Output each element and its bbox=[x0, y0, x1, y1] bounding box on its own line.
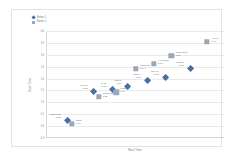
data-point-label: Avg 973.41 bbox=[211, 37, 218, 43]
y-axis-tick-label: 1.0 bbox=[41, 101, 44, 104]
data-point-value: 1.25 bbox=[103, 95, 115, 98]
y-axis-tick-label: 3.5 bbox=[41, 41, 44, 44]
x-axis-title: Real Time bbox=[46, 148, 224, 152]
data-point-label: Mac 972.15 bbox=[151, 70, 159, 76]
data-point-value: 3.12 bbox=[175, 54, 187, 57]
data-point-value: 2.48 bbox=[158, 62, 169, 65]
legend-square-swatch-icon bbox=[32, 21, 35, 24]
data-point-value: 3.41 bbox=[211, 40, 218, 43]
gridline bbox=[46, 90, 224, 91]
data-point-value: 2.15 bbox=[151, 73, 159, 76]
plot-area: Scan Time Real Time 4.03.53.02.52.01.51.… bbox=[46, 31, 224, 138]
data-point-label: Trans 21.40 bbox=[120, 87, 128, 93]
data-point-square[interactable] bbox=[169, 53, 174, 58]
data-point-diamond[interactable] bbox=[162, 74, 169, 81]
y-axis-tick-label: 0.5 bbox=[41, 113, 44, 116]
gridline bbox=[46, 31, 224, 32]
gridline bbox=[46, 126, 224, 127]
data-point-label: Vista 51.75 bbox=[114, 79, 121, 85]
data-point-label: Teen 51.55 bbox=[80, 84, 87, 90]
chart-container: Series 1 Series 2 Scan Time Real Time 4.… bbox=[0, 0, 231, 154]
data-point-diamond[interactable] bbox=[186, 65, 193, 72]
legend-label-series-2: Series 2 bbox=[37, 20, 47, 24]
y-axis-tick-label: 2.5 bbox=[41, 65, 44, 68]
gridline bbox=[46, 114, 224, 115]
data-point-value: 2.55 bbox=[176, 64, 183, 67]
data-point-value: 0.32 bbox=[50, 116, 61, 119]
y-axis-tick-label: 2.0 bbox=[41, 77, 44, 80]
data-point-value: 0.07 bbox=[76, 122, 82, 125]
y-axis-line bbox=[46, 31, 47, 138]
data-point-label: Avg Mach2.48 bbox=[158, 59, 169, 65]
y-axis-tick-label: 4.0 bbox=[41, 30, 44, 33]
gridline bbox=[46, 55, 224, 56]
data-point-square[interactable] bbox=[114, 90, 119, 95]
data-point-label: Mess 3.52.44 bbox=[140, 64, 150, 70]
data-point-label: Trans 72.05 bbox=[133, 73, 141, 79]
data-point-square[interactable] bbox=[151, 61, 156, 66]
data-point-value: 1.62 bbox=[101, 85, 106, 88]
y-axis-tick-label: 0.0 bbox=[41, 125, 44, 128]
y-axis-tick-label: 3.0 bbox=[41, 53, 44, 56]
y-axis-tick-label: 1.5 bbox=[41, 89, 44, 92]
data-point-square[interactable] bbox=[133, 66, 138, 71]
data-point-value: 1.75 bbox=[114, 82, 121, 85]
data-point-square[interactable] bbox=[96, 94, 101, 99]
data-point-label: Saturn2.55 bbox=[176, 61, 183, 67]
data-point-label: Nano SIM0.32 bbox=[50, 113, 61, 119]
data-point-value: 2.05 bbox=[133, 76, 141, 79]
data-point-square[interactable] bbox=[69, 121, 74, 126]
legend-entry-series-2: Series 2 bbox=[32, 20, 47, 24]
data-point-label: Nano0.07 bbox=[76, 119, 82, 125]
gridline bbox=[46, 102, 224, 103]
data-point-square[interactable] bbox=[204, 39, 209, 44]
x-axis-line bbox=[46, 137, 224, 138]
data-point-label: M 751.62 bbox=[101, 82, 106, 88]
chart-frame: Series 1 Series 2 Scan Time Real Time 4.… bbox=[11, 9, 222, 147]
y-axis-title: Scan Time bbox=[28, 77, 32, 91]
chart-legend: Series 1 Series 2 bbox=[32, 16, 47, 24]
data-point-value: 2.44 bbox=[140, 67, 150, 70]
data-point-label: Macs Seps3.12 bbox=[175, 51, 187, 57]
gridline bbox=[46, 43, 224, 44]
data-point-value: 1.55 bbox=[80, 87, 87, 90]
data-point-value: 1.40 bbox=[120, 90, 128, 93]
y-axis-tick-label: -0.5 bbox=[40, 137, 44, 140]
